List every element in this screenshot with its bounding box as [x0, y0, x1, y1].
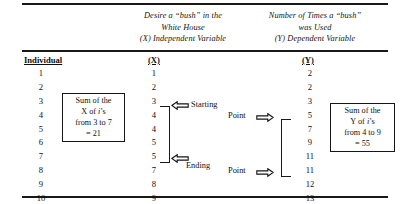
table-row: 9 [26, 178, 56, 192]
table-row: 8 [26, 164, 56, 178]
bottom-rule [22, 196, 388, 198]
starting-label: Starting [191, 100, 218, 109]
table-row: 4 [26, 109, 56, 123]
figure-container: Desire a “bush” in the White House (X) I… [0, 0, 406, 204]
x-sum-line4: = 21 [66, 129, 121, 140]
table-row: 7 [26, 150, 56, 164]
arrow-right-hollow-icon [256, 113, 274, 122]
y-column-header-line1: Number of Times a “bush” [240, 10, 390, 22]
arrow-left-hollow-icon [171, 101, 189, 110]
y-sum-line4: = 55 [334, 139, 391, 150]
table-row: 11 [298, 150, 322, 164]
table-row: 8 [143, 178, 165, 192]
y-sum-line2: Y of i’s [334, 117, 391, 128]
y-range-bracket [281, 119, 291, 177]
table-row: 2 [298, 81, 322, 95]
x-sum-line2: X of i’s [66, 107, 121, 118]
x-sum-line2-pre: X of [81, 107, 98, 116]
table-row: 7 [298, 123, 322, 137]
y-column-header-line2: was Used [240, 22, 390, 34]
point-label-top: Point [228, 111, 246, 120]
table-row: 2 [298, 67, 322, 81]
table-row: 6 [26, 136, 56, 150]
table-row: 12 [298, 178, 322, 192]
x-sum-line1: Sum of the [66, 96, 121, 107]
y-sum-line1: Sum of the [334, 106, 391, 117]
x-column-header-line2: White House [108, 22, 258, 34]
table-row: 7 [143, 164, 165, 178]
table-row: 5 [26, 123, 56, 137]
table-row: 3 [26, 95, 56, 109]
table-row: 1 [26, 67, 56, 81]
x-range-bracket [160, 106, 170, 163]
individual-column-label: Individual [24, 55, 62, 65]
table-row: 2 [143, 81, 165, 95]
y-column-header-line3: (Y) Dependent Variable [240, 33, 390, 45]
table-row: 1 [143, 67, 165, 81]
y-sum-line2-post: ’s [369, 117, 374, 126]
table-row: 3 [298, 95, 322, 109]
y-column-values: 2 2 3 5 7 9 11 11 12 13 [298, 67, 322, 204]
y-column-header: Number of Times a “bush” was Used (Y) De… [240, 10, 390, 45]
header-separator-rule [22, 50, 388, 52]
table-row: 9 [143, 192, 165, 204]
table-row: 9 [298, 136, 322, 150]
table-row: 10 [26, 192, 56, 204]
table-row: 2 [26, 81, 56, 95]
x-column-label: (X) [148, 55, 160, 65]
point-label-bottom: Point [228, 166, 246, 175]
x-column-header-line1: Desire a “bush” in the [108, 10, 258, 22]
y-sum-line2-pre: Y of [350, 117, 367, 126]
ending-label: Ending [186, 161, 210, 170]
x-column-header: Desire a “bush” in the White House (X) I… [108, 10, 258, 45]
x-sum-line2-post: ’s [100, 107, 105, 116]
x-column-header-line3: (X) Independent Variable [108, 33, 258, 45]
y-column-label: (Y) [302, 55, 314, 65]
y-sum-line3: from 4 to 9 [334, 128, 391, 139]
x-sum-line3: from 3 to 7 [66, 118, 121, 129]
y-sum-callout-box: Sum of the Y of i’s from 4 to 9 = 55 [330, 103, 395, 152]
individual-column-values: 1 2 3 4 5 6 7 8 9 10 [26, 67, 56, 204]
arrow-right-hollow-icon [256, 168, 274, 177]
x-sum-callout-box: Sum of the X of i’s from 3 to 7 = 21 [62, 93, 125, 142]
table-row: 5 [298, 109, 322, 123]
table-row: 11 [298, 164, 322, 178]
top-rule [22, 3, 388, 5]
table-row: 13 [298, 192, 322, 204]
